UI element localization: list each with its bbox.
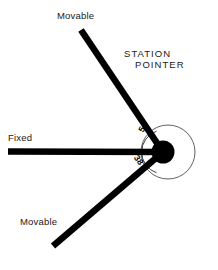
movable-arm-lower[interactable] (53, 152, 163, 246)
title-station-pointer: STATIONPOINTER (124, 48, 185, 70)
station-pointer-diagram: Movable Fixed Movable STATIONPOINTER 54 … (0, 0, 218, 270)
title-line-2: POINTER (124, 59, 185, 70)
diagram-canvas (0, 0, 218, 270)
label-fixed: Fixed (8, 132, 32, 143)
label-movable-bottom: Movable (20, 216, 57, 227)
label-movable-top: Movable (57, 10, 94, 21)
title-line-1: STATION (124, 48, 171, 59)
pivot-hub[interactable] (152, 141, 175, 164)
